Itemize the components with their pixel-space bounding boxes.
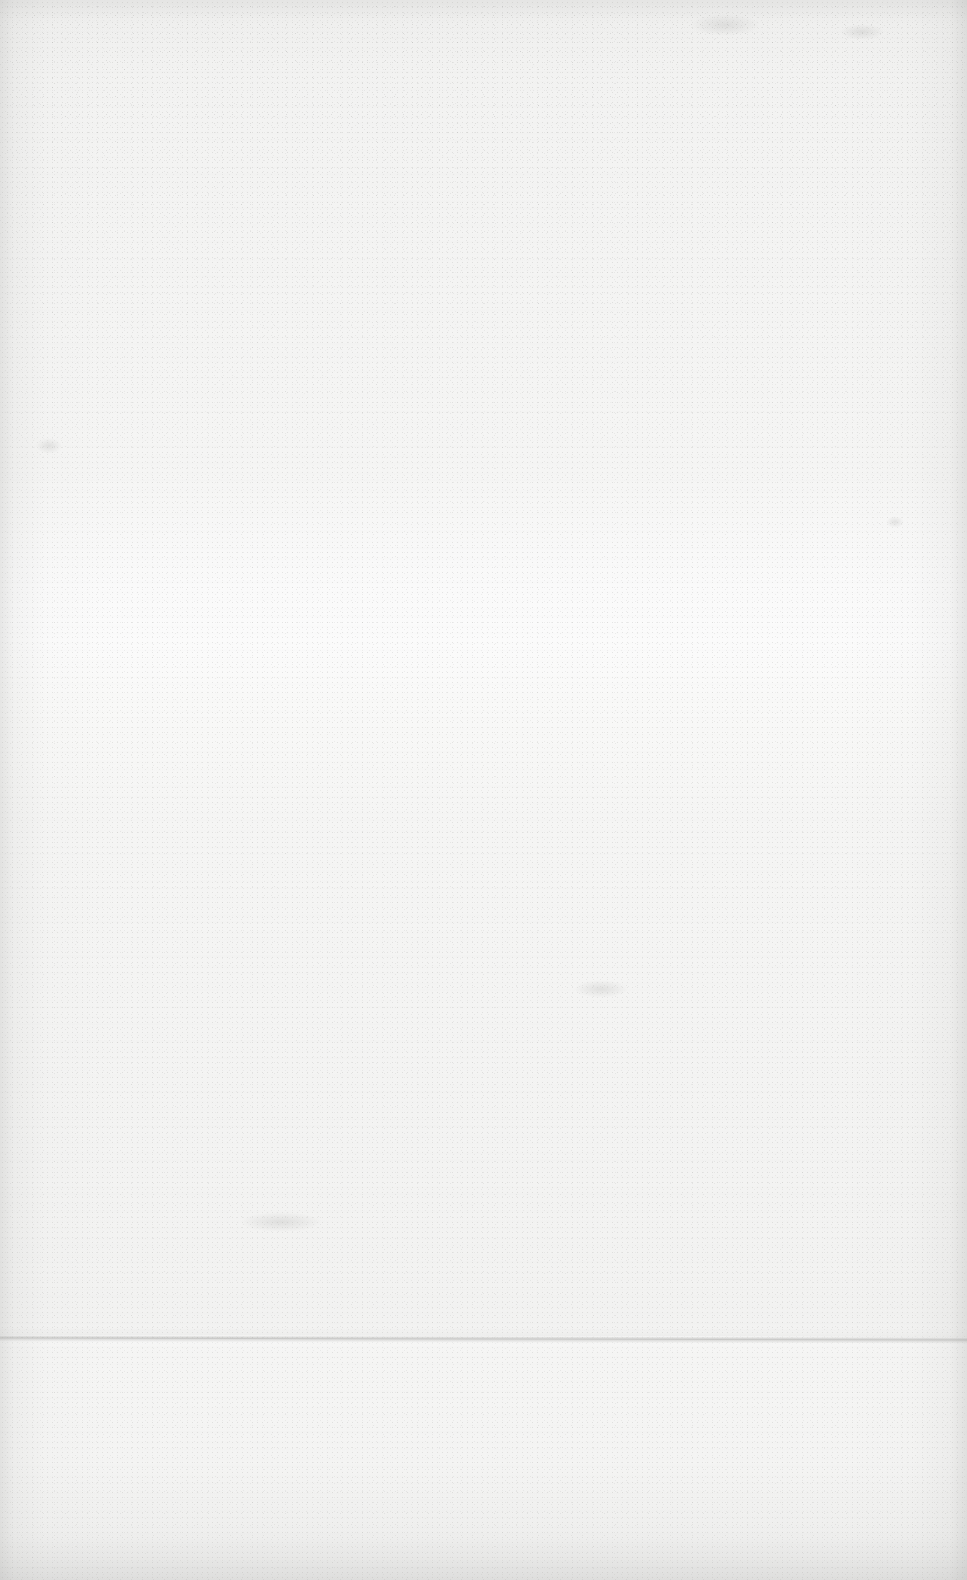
- scanned-page: [0, 0, 967, 1580]
- page-text-content: [0, 0, 967, 1580]
